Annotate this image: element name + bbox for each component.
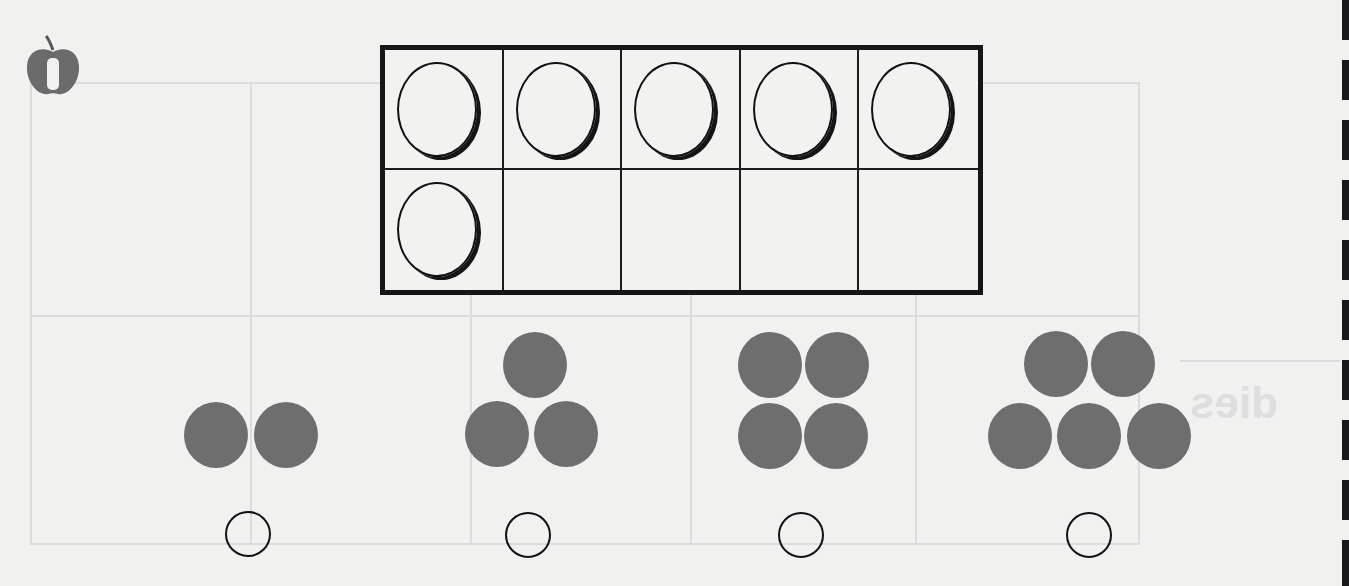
counter-circle: [871, 62, 951, 157]
worksheet-page: dies 1: [0, 0, 1349, 586]
dot: [254, 402, 318, 468]
dot: [738, 332, 802, 398]
ten-frame-cell: [741, 50, 860, 170]
counter-circle: [397, 182, 477, 277]
ten-frame-cell-empty: [622, 170, 741, 290]
ten-frame-cell-empty: [859, 170, 978, 290]
dot: [1024, 331, 1088, 397]
ghost-rule: [30, 315, 1140, 317]
ghost-rule: [30, 82, 32, 544]
dot: [804, 403, 868, 469]
ghost-word: dies: [1190, 378, 1278, 428]
counter-circle: [753, 62, 833, 157]
ten-frame-cell: [622, 50, 741, 170]
ten-frame-cell: [385, 170, 504, 290]
ten-frame: [380, 45, 983, 295]
page-edge-marks: [1342, 0, 1349, 586]
answer-circle-2[interactable]: [225, 511, 271, 557]
dot: [534, 401, 598, 467]
dot: [184, 402, 248, 468]
dot: [805, 332, 869, 398]
ghost-rule: [1180, 360, 1340, 362]
apple-icon: [20, 32, 86, 98]
answer-circle-3[interactable]: [505, 512, 551, 558]
ten-frame-cell-empty: [741, 170, 860, 290]
dot: [988, 403, 1052, 469]
ten-frame-cell-empty: [504, 170, 623, 290]
answer-circle-5[interactable]: [1066, 512, 1112, 558]
dot: [1091, 331, 1155, 397]
counter-circle: [516, 62, 596, 157]
dot: [738, 403, 802, 469]
ten-frame-cell: [504, 50, 623, 170]
answer-circle-4[interactable]: [778, 512, 824, 558]
dot: [1127, 403, 1191, 469]
counter-circle: [397, 62, 477, 157]
dot: [465, 401, 529, 467]
ten-frame-cell: [859, 50, 978, 170]
ghost-rule: [250, 82, 252, 544]
dot: [503, 332, 567, 398]
ten-frame-cell: [385, 50, 504, 170]
counter-circle: [634, 62, 714, 157]
lesson-number-glyph: [47, 58, 59, 90]
dot: [1057, 403, 1121, 469]
ghost-rule: [30, 543, 1140, 545]
ghost-rule: [1138, 82, 1140, 544]
